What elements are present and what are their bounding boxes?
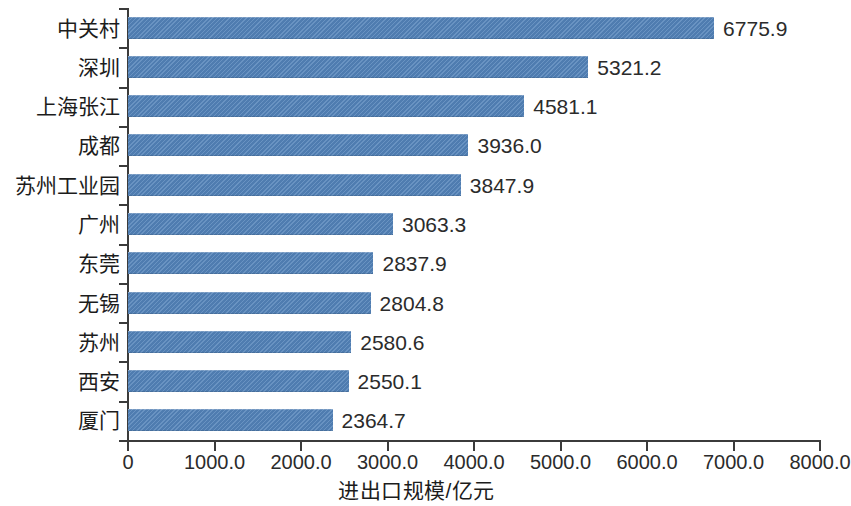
- bar: [128, 331, 351, 353]
- y-axis-tick: [119, 165, 128, 167]
- category-label: 厦门: [4, 410, 120, 431]
- bar-row: 深圳5321.2: [128, 47, 820, 86]
- y-axis-tick: [119, 8, 128, 10]
- x-axis-tick: [387, 442, 389, 451]
- y-axis-tick: [119, 87, 128, 89]
- category-label: 中关村: [4, 17, 120, 38]
- x-axis-tick: [214, 442, 216, 451]
- y-axis-tick: [119, 322, 128, 324]
- bar-row: 中关村6775.9: [128, 8, 820, 47]
- bar-value-label: 2580.6: [360, 331, 424, 352]
- bar-row: 西安2550.1: [128, 361, 820, 400]
- bar: [128, 95, 524, 117]
- bar-value-label: 3063.3: [402, 213, 466, 234]
- bar-row: 广州3063.3: [128, 204, 820, 243]
- bar-value-label: 5321.2: [597, 56, 661, 77]
- category-label: 广州: [4, 213, 120, 234]
- bar-value-label: 6775.9: [723, 17, 787, 38]
- y-axis-tick: [119, 47, 128, 49]
- bar-row: 成都3936.0: [128, 126, 820, 165]
- bar: [128, 56, 588, 78]
- bar-value-label: 2550.1: [358, 371, 422, 392]
- x-axis-tick-label: 1000.0: [184, 452, 245, 472]
- bar-value-label: 2804.8: [380, 292, 444, 313]
- x-axis-tick-label: 0: [122, 452, 133, 472]
- bar: [128, 174, 461, 196]
- category-label: 无锡: [4, 292, 120, 313]
- x-axis-tick: [127, 442, 129, 451]
- bar-row: 东莞2837.9: [128, 244, 820, 283]
- category-label: 苏州工业园: [4, 174, 120, 195]
- x-axis-tick-label: 7000.0: [703, 452, 764, 472]
- bar-value-label: 3847.9: [470, 174, 534, 195]
- bar-row: 厦门2364.7: [128, 401, 820, 440]
- bar-value-label: 3936.0: [477, 135, 541, 156]
- bar: [128, 370, 349, 392]
- x-axis-tick: [819, 442, 821, 451]
- bar-row: 上海张江4581.1: [128, 87, 820, 126]
- bar: [128, 252, 373, 274]
- y-axis-tick: [119, 361, 128, 363]
- bar: [128, 213, 393, 235]
- x-axis-tick-label: 2000.0: [270, 452, 331, 472]
- bar-row: 苏州工业园3847.9: [128, 165, 820, 204]
- category-label: 成都: [4, 135, 120, 156]
- y-axis-tick: [119, 126, 128, 128]
- x-axis-tick: [733, 442, 735, 451]
- y-axis-tick: [119, 401, 128, 403]
- bar-value-label: 2837.9: [382, 253, 446, 274]
- x-axis-tick: [560, 442, 562, 451]
- x-axis-tick-label: 4000.0: [443, 452, 504, 472]
- x-axis-title: 进出口规模/亿元: [0, 480, 833, 501]
- plot-area: 中关村6775.9深圳5321.2上海张江4581.1成都3936.0苏州工业园…: [128, 8, 820, 440]
- x-axis-tick: [300, 442, 302, 451]
- x-axis-tick-label: 5000.0: [530, 452, 591, 472]
- category-label: 上海张江: [4, 96, 120, 117]
- bar-row: 无锡2804.8: [128, 283, 820, 322]
- bar: [128, 409, 333, 431]
- x-axis-tick-label: 6000.0: [616, 452, 677, 472]
- bar-value-label: 2364.7: [342, 410, 406, 431]
- bar-value-label: 4581.1: [533, 96, 597, 117]
- x-axis-tick-label: 8000.0: [789, 452, 850, 472]
- y-axis-tick: [119, 283, 128, 285]
- category-label: 东莞: [4, 253, 120, 274]
- x-axis-tick-label: 3000.0: [357, 452, 418, 472]
- category-label: 西安: [4, 371, 120, 392]
- category-label: 苏州: [4, 331, 120, 352]
- bar: [128, 134, 468, 156]
- bar-row: 苏州2580.6: [128, 322, 820, 361]
- x-axis-tick: [473, 442, 475, 451]
- category-label: 深圳: [4, 56, 120, 77]
- y-axis-tick: [119, 244, 128, 246]
- bar: [128, 17, 714, 39]
- bar: [128, 292, 371, 314]
- y-axis-tick: [119, 204, 128, 206]
- x-axis-tick: [646, 442, 648, 451]
